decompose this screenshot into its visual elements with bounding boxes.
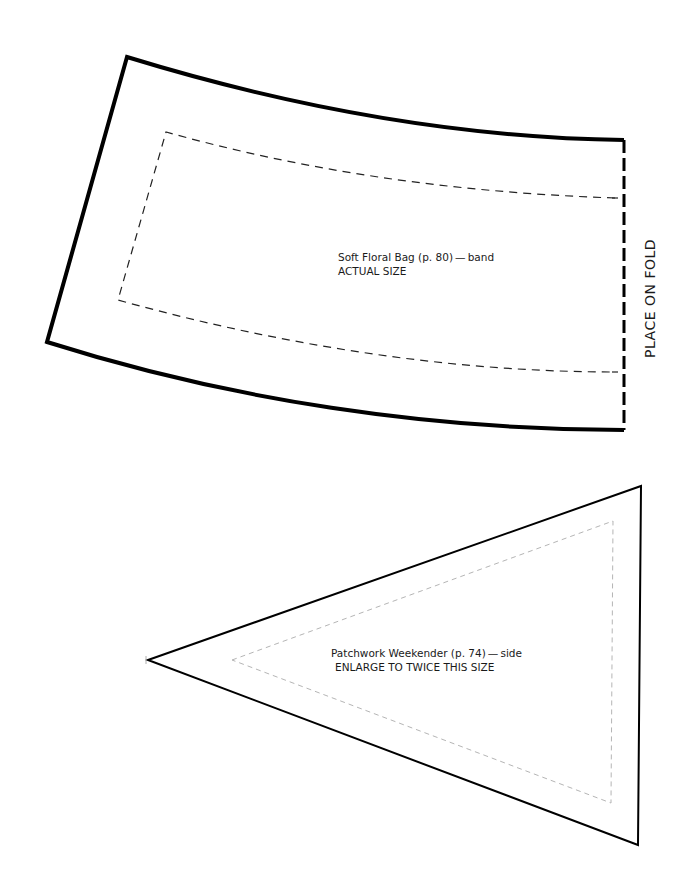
side-piece-size-note: ENLARGE TO TWICE THIS SIZE bbox=[331, 660, 522, 674]
band-outline bbox=[47, 57, 624, 430]
side-piece-title: Patchwork Weekender (p. 74) — side bbox=[331, 646, 522, 660]
band-piece-label: Soft Floral Bag (p. 80) — band ACTUAL SI… bbox=[338, 250, 494, 278]
pattern-pieces-drawing bbox=[0, 0, 678, 895]
band-piece-title: Soft Floral Bag (p. 80) — band bbox=[338, 250, 494, 264]
place-on-fold-label: PLACE ON FOLD bbox=[642, 198, 662, 358]
band-piece-size-note: ACTUAL SIZE bbox=[338, 264, 494, 278]
side-piece-label: Patchwork Weekender (p. 74) — side ENLAR… bbox=[331, 646, 522, 674]
pattern-page: Soft Floral Bag (p. 80) — band ACTUAL SI… bbox=[0, 0, 678, 895]
